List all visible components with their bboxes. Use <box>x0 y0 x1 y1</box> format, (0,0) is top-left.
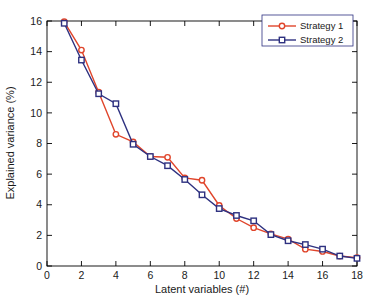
x-tick-label: 8 <box>182 269 188 281</box>
x-tick-label: 16 <box>317 269 329 281</box>
x-tick-label: 0 <box>44 269 50 281</box>
chart-legend: Strategy 1Strategy 2 <box>262 15 353 46</box>
data-point-marker <box>113 132 118 137</box>
x-tick-label: 4 <box>113 269 119 281</box>
x-tick-label: 14 <box>282 269 294 281</box>
data-point-marker <box>130 142 135 147</box>
data-point-marker <box>320 246 325 251</box>
data-point-marker <box>148 154 153 159</box>
explained-variance-line-chart: 024681012141618 0246810121416 Latent var… <box>0 0 370 305</box>
data-point-marker <box>234 213 239 218</box>
data-point-marker <box>62 21 67 26</box>
x-tick-label: 2 <box>79 269 85 281</box>
data-point-marker <box>268 232 273 237</box>
data-point-marker <box>199 192 204 197</box>
legend-label: Strategy 2 <box>300 34 343 45</box>
y-tick-label: 0 <box>36 260 42 272</box>
data-point-marker <box>251 225 256 230</box>
data-point-marker <box>337 253 342 258</box>
chart-figure: 024681012141618 0246810121416 Latent var… <box>0 0 370 305</box>
y-tick-label: 10 <box>30 107 42 119</box>
data-point-marker <box>96 91 101 96</box>
data-point-marker <box>285 238 290 243</box>
y-tick-label: 8 <box>36 137 42 149</box>
x-tick-label: 10 <box>213 269 225 281</box>
x-axis-title: Latent variables (#) <box>155 283 249 295</box>
data-point-marker <box>113 101 118 106</box>
data-point-marker <box>354 256 359 261</box>
data-point-marker <box>303 242 308 247</box>
x-tick-label: 12 <box>248 269 260 281</box>
data-point-marker <box>165 155 170 160</box>
x-tick-label: 6 <box>147 269 153 281</box>
data-point-marker <box>79 47 84 52</box>
data-point-marker <box>79 57 84 62</box>
legend-marker <box>279 37 284 42</box>
y-tick-label: 6 <box>36 168 42 180</box>
y-tick-label: 4 <box>36 198 42 210</box>
y-tick-label: 2 <box>36 229 42 241</box>
y-tick-label: 14 <box>30 45 42 57</box>
data-point-marker <box>199 178 204 183</box>
x-tick-label: 18 <box>351 269 363 281</box>
data-point-marker <box>251 218 256 223</box>
data-point-marker <box>182 177 187 182</box>
data-point-marker <box>217 206 222 211</box>
legend-label: Strategy 1 <box>300 20 343 31</box>
legend-marker <box>279 23 284 28</box>
data-point-marker <box>165 163 170 168</box>
y-tick-label: 12 <box>30 76 42 88</box>
y-axis-title: Explained variance (%) <box>4 86 16 199</box>
y-tick-label: 16 <box>30 15 42 27</box>
